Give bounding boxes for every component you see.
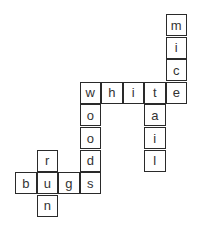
crossword-cell: o	[80, 104, 102, 126]
crossword-cell: m	[166, 14, 188, 36]
crossword-cell: s	[80, 172, 102, 194]
crossword-cell: w	[80, 82, 102, 104]
crossword-cell: i	[144, 127, 166, 149]
crossword-cell: r	[37, 150, 59, 172]
crossword-cell: u	[37, 172, 59, 194]
crossword-cell: c	[166, 59, 188, 81]
crossword-cell: e	[166, 82, 188, 104]
crossword-cell: a	[144, 104, 166, 126]
crossword-cell: o	[80, 127, 102, 149]
crossword-cell: g	[58, 172, 80, 194]
crossword-cell: h	[101, 82, 123, 104]
crossword-grid: micwhiteoaoirdlbugsn	[0, 0, 202, 233]
crossword-cell: l	[144, 150, 166, 172]
crossword-cell: b	[15, 172, 37, 194]
crossword-cell: i	[166, 37, 188, 59]
crossword-cell: i	[123, 82, 145, 104]
crossword-cell: n	[37, 195, 59, 217]
crossword-cell: d	[80, 150, 102, 172]
crossword-cell: t	[144, 82, 166, 104]
